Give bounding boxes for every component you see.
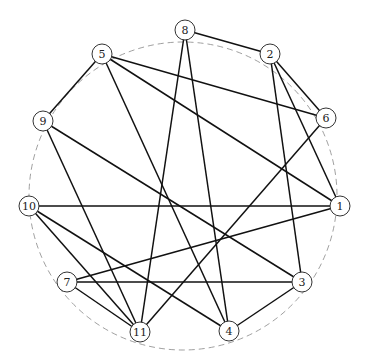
edge-9-11 [43, 121, 140, 332]
node-5: 5 [92, 44, 112, 64]
node-7: 7 [57, 272, 77, 292]
node-label: 11 [133, 326, 147, 339]
edge-7-1 [67, 206, 340, 282]
node-label: 9 [40, 115, 47, 128]
edge-2-6 [270, 54, 326, 118]
graph-diagram: 1234567891011 [0, 0, 367, 363]
node-1: 1 [330, 196, 350, 216]
node-label: 7 [64, 276, 71, 289]
edge-10-4 [29, 206, 229, 331]
node-label: 10 [22, 200, 36, 213]
node-3: 3 [292, 272, 312, 292]
node-label: 6 [323, 112, 330, 125]
edge-8-4 [185, 30, 229, 331]
node-label: 5 [99, 48, 106, 61]
node-11: 11 [130, 322, 150, 342]
node-10: 10 [19, 196, 39, 216]
node-label: 1 [337, 200, 344, 213]
edge-3-4 [229, 282, 302, 331]
edge-9-3 [43, 121, 302, 282]
node-6: 6 [316, 108, 336, 128]
edge-5-9 [43, 54, 102, 121]
layout-circle [29, 42, 337, 350]
node-label: 2 [267, 48, 274, 61]
edge-6-11 [140, 118, 326, 332]
node-label: 3 [299, 276, 306, 289]
node-label: 8 [182, 24, 189, 37]
node-label: 4 [226, 325, 233, 338]
node-9: 9 [33, 111, 53, 131]
edge-5-6 [102, 54, 326, 118]
node-4: 4 [219, 321, 239, 341]
edge-8-2 [185, 30, 270, 54]
node-2: 2 [260, 44, 280, 64]
node-8: 8 [175, 20, 195, 40]
edge-10-11 [29, 206, 140, 332]
